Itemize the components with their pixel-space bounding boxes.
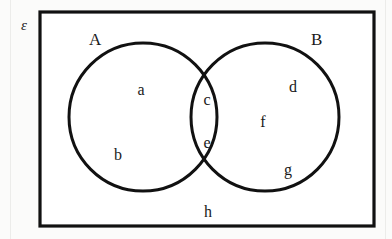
region-label-g: g xyxy=(284,162,292,178)
venn-diagram-figure: ε A B abcedfgh xyxy=(0,0,392,239)
universal-set-label: ε xyxy=(21,18,27,33)
set-a-label: A xyxy=(89,31,101,48)
region-label-e: e xyxy=(203,135,210,151)
venn-diagram-graphics xyxy=(0,0,392,239)
region-label-d: d xyxy=(289,79,297,95)
region-label-a: a xyxy=(137,82,144,98)
region-label-f: f xyxy=(260,114,265,130)
region-label-h: h xyxy=(204,204,212,220)
set-b-label: B xyxy=(311,31,322,48)
region-label-c: c xyxy=(203,92,210,108)
region-label-b: b xyxy=(114,147,122,163)
